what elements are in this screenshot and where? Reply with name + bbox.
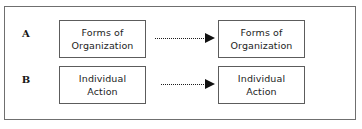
diagram-row-b: B Individual Action Individual Action: [5, 59, 357, 103]
node-label-b-source: Individual Action: [79, 72, 126, 98]
diagram-row-a: A Forms of Organization Forms of Organiz…: [5, 13, 357, 57]
row-label-b: B: [18, 74, 34, 86]
arrow-head-icon-a: [205, 33, 215, 43]
connector-line-b: [161, 84, 206, 85]
node-box-a-source: Forms of Organization: [59, 20, 146, 58]
node-box-a-target: Forms of Organization: [218, 20, 305, 58]
diagram-figure: A Forms of Organization Forms of Organiz…: [0, 0, 362, 129]
connector-arrow-a: [155, 31, 215, 47]
node-box-b-source: Individual Action: [59, 66, 146, 104]
node-label-a-target: Forms of Organization: [231, 26, 293, 52]
figure-frame: A Forms of Organization Forms of Organiz…: [4, 6, 356, 120]
node-label-b-target: Individual Action: [238, 72, 285, 98]
connector-arrow-b: [161, 77, 215, 93]
row-label-a: A: [18, 28, 34, 40]
node-box-b-target: Individual Action: [218, 66, 305, 104]
arrow-head-icon-b: [205, 79, 215, 89]
connector-line-a: [155, 38, 206, 39]
node-label-a-source: Forms of Organization: [72, 26, 134, 52]
